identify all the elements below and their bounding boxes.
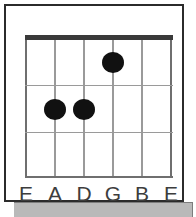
finger-dot-d-string-fret-2	[73, 99, 95, 120]
fret-line-1	[25, 85, 173, 86]
string-line-b	[141, 40, 143, 178]
string-line-low-e	[25, 40, 27, 178]
bottom-gray-bar	[14, 202, 193, 217]
finger-dot-g-string-fret-1	[102, 52, 124, 73]
finger-dot-a-string-fret-2	[44, 99, 66, 120]
chord-diagram-card: E A D G B E	[4, 4, 184, 202]
nut-bar	[25, 35, 173, 40]
fret-line-2	[25, 132, 173, 133]
fret-line-3	[25, 176, 173, 178]
string-line-high-e	[170, 40, 172, 178]
fretboard	[25, 35, 173, 178]
